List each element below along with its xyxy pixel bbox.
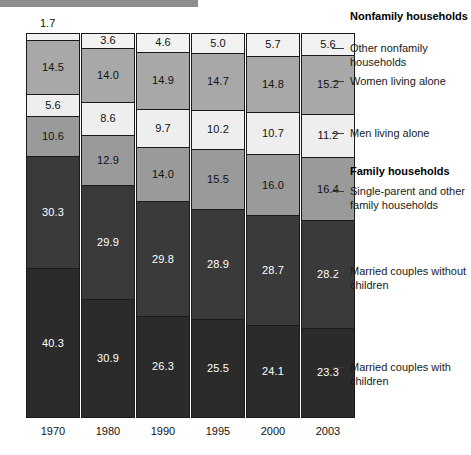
bar-stack: 14.55.610.630.340.3: [26, 33, 80, 418]
segment-value-label: 14.9: [152, 75, 174, 86]
bar-segment: 4.6: [137, 34, 189, 53]
bar-segment: 30.3: [27, 157, 79, 269]
segment-value-label-outside: 1.7: [40, 18, 55, 29]
x-axis-tick-label-1980: 1980: [81, 425, 135, 437]
bar-segment: 28.7: [247, 216, 299, 325]
segment-value-label: 30.3: [42, 207, 64, 218]
bar-stack: 4.614.99.714.029.826.3: [136, 33, 190, 418]
legend-leader-line: [332, 48, 344, 49]
bar-segment: 3.6: [82, 34, 134, 49]
bar-segment: 10.2: [192, 111, 244, 151]
bar-stack: 5.714.810.716.028.724.1: [246, 33, 300, 418]
bar-segment: 8.6: [82, 103, 134, 137]
segment-value-label: 10.7: [262, 128, 284, 139]
bar-column-1990: 4.614.99.714.029.826.3: [136, 33, 190, 418]
segment-value-label: 5.0: [210, 38, 226, 49]
segment-value-label: 30.9: [97, 353, 119, 364]
stacked-bar-chart: 14.55.610.630.340.319703.614.08.612.929.…: [0, 0, 471, 455]
bar-segment: 14.8: [247, 57, 299, 114]
legend-group-heading: Nonfamily households: [350, 10, 471, 24]
segment-value-label: 3.6: [100, 35, 116, 46]
segment-value-label: 14.0: [152, 169, 174, 180]
bar-segment: 16.0: [247, 155, 299, 216]
segment-value-label: 4.6: [155, 37, 171, 48]
bar-segment: 24.1: [247, 326, 299, 417]
chart-legend: Nonfamily householdsOther nonfamily hous…: [330, 0, 471, 455]
x-axis-tick-label-1990: 1990: [136, 425, 190, 437]
segment-value-label: 14.0: [97, 70, 119, 81]
bar-stack: 3.614.08.612.929.930.9: [81, 33, 135, 418]
segment-value-label: 26.3: [152, 361, 174, 372]
legend-leader-line: [332, 271, 344, 272]
bar-segment: 10.6: [27, 117, 79, 157]
bar-segment: 9.7: [137, 110, 189, 148]
segment-value-label: 28.7: [262, 265, 284, 276]
bar-segment: 12.9: [82, 136, 134, 186]
bar-stack: 5.014.710.215.528.925.5: [191, 33, 245, 418]
x-axis-tick-label-2000: 2000: [246, 425, 300, 437]
bar-segment: 5.0: [192, 34, 244, 54]
plot-area: 14.55.610.630.340.319703.614.08.612.929.…: [0, 0, 330, 455]
legend-leader-line: [332, 133, 344, 134]
segment-value-label: 29.8: [152, 254, 174, 265]
bar-segment: 29.8: [137, 202, 189, 316]
legend-leader-line: [332, 81, 344, 82]
segment-value-label: 5.6: [45, 100, 61, 111]
bar-column-1980: 3.614.08.612.929.930.9: [81, 33, 135, 418]
bar-segment: [27, 34, 79, 41]
segment-value-label: 25.5: [207, 363, 229, 374]
segment-value-label: 29.9: [97, 237, 119, 248]
legend-item-label: Married couples without children: [350, 265, 471, 292]
segment-value-label: 14.5: [42, 62, 64, 73]
bar-segment: 25.5: [192, 320, 244, 417]
segment-value-label: 28.9: [207, 259, 229, 270]
bar-segment: 26.3: [137, 317, 189, 417]
legend-item-label: Married couples with children: [350, 361, 471, 388]
segment-value-label: 8.6: [100, 113, 116, 124]
bar-segment: 15.5: [192, 150, 244, 210]
bar-column-1995: 5.014.710.215.528.925.5: [191, 33, 245, 418]
segment-value-label: 10.2: [207, 124, 229, 135]
x-axis-tick-label-1995: 1995: [191, 425, 245, 437]
legend-leader-line: [332, 367, 344, 368]
bar-segment: 40.3: [27, 269, 79, 417]
segment-value-label: 15.5: [207, 174, 229, 185]
legend-item-label: Women living alone: [350, 75, 471, 89]
segment-value-label: 24.1: [262, 366, 284, 377]
segment-value-label: 14.7: [207, 76, 229, 87]
bar-column-2000: 5.714.810.716.028.724.1: [246, 33, 300, 418]
bar-segment: 5.7: [247, 34, 299, 57]
bar-segment: 14.7: [192, 54, 244, 111]
bar-segment: 10.7: [247, 113, 299, 154]
bar-segment: 30.9: [82, 300, 134, 417]
segment-value-label: 12.9: [97, 155, 119, 166]
x-axis-tick-label-1970: 1970: [26, 425, 80, 437]
legend-item-label: Single-parent and other family household…: [350, 185, 471, 212]
legend-leader-line: [332, 191, 344, 192]
segment-value-label: 10.6: [42, 131, 64, 142]
segment-value-label: 16.0: [262, 180, 284, 191]
bar-segment: 14.0: [82, 49, 134, 103]
legend-group-heading: Family households: [350, 165, 471, 179]
segment-value-label: 40.3: [42, 338, 64, 349]
segment-value-label: 5.7: [265, 39, 281, 50]
legend-item-label: Men living alone: [350, 127, 471, 141]
segment-value-label: 9.7: [155, 123, 171, 134]
bar-segment: 14.9: [137, 53, 189, 111]
bar-segment: 14.0: [137, 148, 189, 202]
legend-item-label: Other nonfamily households: [350, 42, 471, 69]
bar-segment: 14.5: [27, 41, 79, 95]
bar-column-1970: 14.55.610.630.340.3: [26, 33, 80, 418]
segment-value-label: 14.8: [262, 79, 284, 90]
bar-segment: 29.9: [82, 186, 134, 300]
bar-segment: 5.6: [27, 95, 79, 117]
bar-segment: 28.9: [192, 210, 244, 320]
